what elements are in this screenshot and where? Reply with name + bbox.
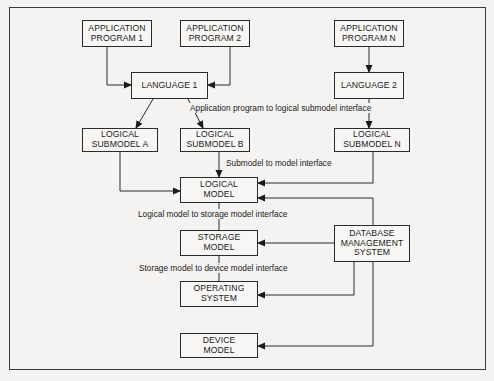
operating-system-box: OPERATING SYSTEM bbox=[180, 281, 258, 307]
storage-to-device-interface-label: Storage model to device model interface bbox=[138, 263, 289, 273]
logical-model-label: LOGICAL MODEL bbox=[200, 180, 238, 199]
submodel-to-model-interface-label: Submodel to model interface bbox=[225, 158, 333, 168]
device-model-label: DEVICE MODEL bbox=[203, 336, 236, 355]
storage-model-box: STORAGE MODEL bbox=[180, 230, 258, 256]
dbms-box: DATABASE MANAGEMENT SYSTEM bbox=[334, 225, 410, 262]
application-program-n-box: APPLICATION PROGRAM N bbox=[334, 20, 404, 47]
storage-model-label: STORAGE MODEL bbox=[198, 233, 241, 252]
device-model-box: DEVICE MODEL bbox=[180, 333, 258, 358]
application-program-2-box: APPLICATION PROGRAM 2 bbox=[180, 20, 250, 47]
logical-model-box: LOGICAL MODEL bbox=[180, 177, 258, 203]
language-2-box: LANGUAGE 2 bbox=[334, 72, 404, 99]
logical-submodel-b-box: LOGICAL SUBMODEL B bbox=[180, 128, 250, 152]
logical-submodel-n-box: LOGICAL SUBMODEL N bbox=[334, 128, 410, 152]
language-2-label: LANGUAGE 2 bbox=[341, 81, 397, 91]
application-program-n-label: APPLICATION PROGRAM N bbox=[340, 24, 397, 43]
logical-to-storage-interface-label: Logical model to storage model interface bbox=[137, 209, 288, 219]
dbms-label: DATABASE MANAGEMENT SYSTEM bbox=[341, 229, 404, 258]
operating-system-label: OPERATING SYSTEM bbox=[194, 284, 245, 303]
application-program-2-label: APPLICATION PROGRAM 2 bbox=[186, 24, 243, 43]
logical-submodel-b-label: LOGICAL SUBMODEL B bbox=[186, 130, 243, 149]
app-to-submodel-interface-label: Application program to logical submodel … bbox=[189, 103, 372, 113]
application-program-1-box: APPLICATION PROGRAM 1 bbox=[82, 20, 152, 47]
logical-submodel-a-label: LOGICAL SUBMODEL A bbox=[92, 130, 149, 149]
logical-submodel-a-box: LOGICAL SUBMODEL A bbox=[82, 128, 158, 152]
logical-submodel-n-label: LOGICAL SUBMODEL N bbox=[343, 130, 401, 149]
application-program-1-label: APPLICATION PROGRAM 1 bbox=[88, 24, 145, 43]
language-1-box: LANGUAGE 1 bbox=[131, 72, 208, 99]
language-1-label: LANGUAGE 1 bbox=[142, 81, 198, 91]
